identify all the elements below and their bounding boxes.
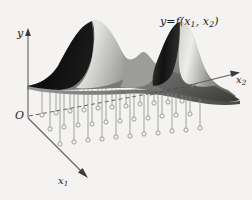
formula-base: y=f(x — [160, 15, 191, 28]
formula-mid: , x — [196, 15, 210, 28]
x2-sub: 2 — [242, 78, 247, 87]
x1-axis-line — [28, 118, 84, 174]
function-formula-label: y=f(x1, x2) — [160, 16, 219, 29]
origin-label: O — [15, 110, 24, 121]
y-axis-arrowhead — [25, 28, 31, 36]
formula-close: ) — [214, 15, 218, 28]
y-axis-label: y — [17, 28, 23, 39]
x1-sub: 1 — [64, 179, 69, 188]
x1-axis-label: x1 — [58, 176, 68, 187]
surface-right-peak-lit — [179, 22, 216, 87]
x2-axis-label: x2 — [236, 75, 246, 86]
surface-plot-figure: y=f(x1, x2) y O x1 x2 — [0, 0, 252, 200]
plot-canvas — [0, 0, 252, 200]
